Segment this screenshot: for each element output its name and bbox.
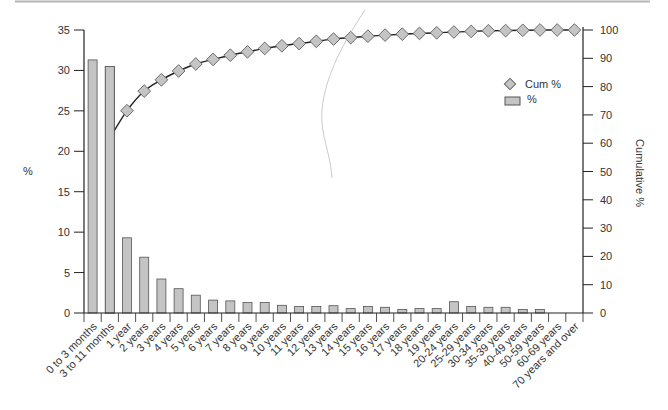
diamond-marker-icon [551, 24, 564, 37]
bar [174, 289, 183, 313]
bar [140, 257, 149, 313]
bar [432, 309, 441, 313]
y2-tick-label: 0 [600, 307, 606, 319]
diamond-marker-icon [448, 26, 461, 39]
diamond-marker-icon [465, 25, 478, 38]
diamond-marker-icon [172, 65, 185, 78]
y-tick-label: 0 [64, 307, 70, 319]
diamond-marker-icon [499, 24, 512, 37]
y2-tick-label: 80 [600, 81, 612, 93]
y2-tick-label: 20 [600, 250, 612, 262]
diamond-marker-icon [276, 39, 289, 52]
bar [346, 309, 355, 313]
bar [226, 301, 235, 313]
bar-series [88, 60, 544, 313]
y2-tick-label: 60 [600, 137, 612, 149]
bar [88, 60, 97, 313]
y2-tick-label: 30 [600, 222, 612, 234]
x-axis: 0 to 3 months3 to 11 months1 year2 years… [43, 313, 583, 391]
diamond-marker-icon [516, 24, 529, 37]
bar [363, 307, 372, 314]
y2-tick-label: 10 [600, 279, 612, 291]
bar [415, 309, 424, 313]
bar-swatch-icon [505, 97, 520, 105]
bar [484, 307, 493, 313]
diamond-marker-icon [121, 104, 134, 117]
diamond-marker-icon [258, 42, 271, 55]
bar [312, 307, 321, 314]
bar [329, 306, 338, 313]
y-tick-label: 10 [58, 226, 70, 238]
bar [467, 307, 476, 314]
diamond-marker-icon [327, 33, 340, 46]
bar [191, 295, 200, 313]
y-tick-label: 30 [58, 64, 70, 76]
bar [157, 279, 166, 313]
y-tick-label: 35 [58, 24, 70, 36]
bar [260, 303, 269, 314]
bar [295, 307, 304, 314]
diamond-marker-icon [241, 45, 254, 58]
y-tick-label: 15 [58, 186, 70, 198]
pareto-chart: 05101520253035 0102030405060708090100 0 … [0, 0, 668, 410]
diamond-marker-icon [568, 24, 581, 37]
y2-tick-label: 50 [600, 166, 612, 178]
bar [209, 300, 218, 313]
y2-tick-label: 70 [600, 109, 612, 121]
scan-artifact-hair [322, 10, 365, 178]
y-tick-label: 20 [58, 145, 70, 157]
diamond-marker-icon [430, 26, 443, 39]
y-tick-label: 5 [64, 267, 70, 279]
diamond-marker-icon [207, 53, 220, 66]
diamond-marker-icon [293, 37, 306, 50]
y2-tick-label: 90 [600, 52, 612, 64]
y-tick-label: 25 [58, 105, 70, 117]
diamond-marker-icon [534, 24, 547, 37]
diamond-marker-icon [189, 58, 202, 71]
legend-label-cum: Cum % [525, 78, 561, 90]
bar [123, 238, 132, 313]
diamond-marker-icon [413, 27, 426, 40]
diamond-marker-icon [396, 28, 409, 41]
left-axis-label: % [23, 165, 33, 177]
y2-tick-label: 40 [600, 194, 612, 206]
diamond-marker-icon [155, 73, 168, 86]
y2-tick-label: 100 [600, 24, 618, 36]
legend: Cum % % [504, 78, 561, 105]
diamond-marker-icon [504, 78, 515, 89]
bar [381, 307, 390, 313]
diamond-marker-icon [224, 49, 237, 62]
diamond-marker-icon [362, 30, 375, 43]
bar [277, 305, 286, 313]
diamond-marker-icon [379, 29, 392, 42]
legend-label-pct: % [527, 93, 537, 105]
bar [449, 302, 458, 313]
bar [105, 66, 114, 313]
diamond-marker-icon [310, 35, 323, 48]
chart-canvas: 05101520253035 0102030405060708090100 0 … [0, 0, 668, 410]
right-axis-label: Cumulative % [634, 139, 646, 207]
legend-item-cum: Cum % [504, 78, 561, 90]
cumulative-line-series [105, 24, 580, 313]
legend-item-pct: % [505, 93, 537, 105]
diamond-marker-icon [482, 24, 495, 37]
left-y-axis: 05101520253035 [58, 24, 84, 319]
right-y-axis: 0102030405060708090100 [583, 24, 618, 319]
bar [243, 303, 252, 314]
bar [501, 307, 510, 313]
